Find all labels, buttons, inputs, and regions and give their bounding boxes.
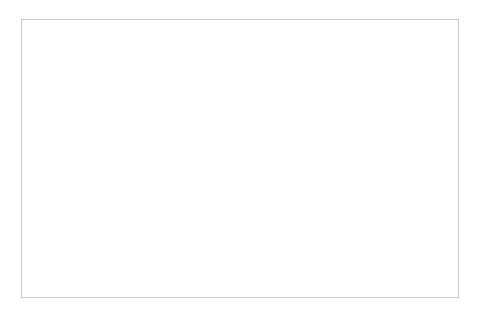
pie-chart-plot-area — [0, 0, 480, 318]
pie-chart-svg — [0, 0, 480, 318]
